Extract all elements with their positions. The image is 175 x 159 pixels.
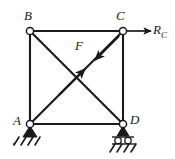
label-reaction-rc-subscript: C [161,30,167,40]
joint-C [119,27,126,34]
label-reaction-rc-base: R [153,22,161,37]
support-A-pin [13,126,40,145]
label-reaction-rc: RC [153,23,167,42]
force-F-arrow-upper [95,36,119,60]
support-A-hatching [14,137,40,145]
label-node-c: C [116,9,125,22]
joint-D [119,120,126,127]
label-node-b: B [24,9,32,22]
label-force-f: F [75,39,83,52]
label-node-d: D [130,113,139,126]
truss-diagram: B C A D F RC [0,0,175,159]
support-A-ground-dot [13,143,15,145]
truss-diagram-svg [0,0,175,159]
joint-A [26,120,33,127]
support-D-roller [110,126,136,152]
support-D-roller-wheel-right [125,137,131,143]
support-D-hatching [110,144,136,152]
support-D-roller-wheel-left [115,137,121,143]
label-node-a: A [13,114,21,127]
joint-B [26,27,33,34]
